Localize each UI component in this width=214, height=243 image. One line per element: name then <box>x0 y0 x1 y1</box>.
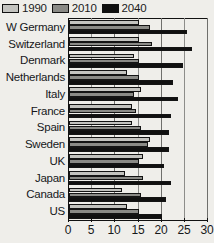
legend-label-1990: 1990 <box>22 3 47 14</box>
bar-denmark-2040 <box>69 63 183 68</box>
bar-switzerland-2040 <box>69 47 192 52</box>
bar-group <box>69 170 208 187</box>
tickmark-5 <box>91 218 92 222</box>
category-label-us: US <box>0 205 65 217</box>
bar-chart: 1990 2010 2040 W GermanySwitzerlandDenma… <box>0 0 214 243</box>
bar-group <box>69 187 208 204</box>
bar-group <box>69 103 208 120</box>
bar-group <box>69 19 208 36</box>
tickmark-20 <box>161 218 162 222</box>
legend-item-1990: 1990 <box>2 3 47 14</box>
legend-label-2040: 2040 <box>122 3 147 14</box>
category-label-japan: Japan <box>0 172 65 184</box>
value-tick-label-25: 25 <box>178 223 191 237</box>
bar-group <box>69 120 208 137</box>
bar-japan-2040 <box>69 181 171 186</box>
value-axis-tick-labels: 051015202530 <box>0 222 214 238</box>
legend-swatch-2010 <box>52 4 69 13</box>
category-label-canada: Canada <box>0 188 65 200</box>
value-tick-label-15: 15 <box>132 223 145 237</box>
bar-w-germany-2040 <box>69 30 187 35</box>
bar-group <box>69 86 208 103</box>
bar-group <box>69 53 208 70</box>
legend-label-2010: 2010 <box>72 3 97 14</box>
category-label-france: France <box>0 105 65 117</box>
value-tick-label-0: 0 <box>65 223 71 237</box>
bar-us-2040 <box>69 214 162 219</box>
bar-sweden-2040 <box>69 147 169 152</box>
legend-item-2010: 2010 <box>52 3 97 14</box>
bar-uk-2040 <box>69 164 164 169</box>
value-tick-label-5: 5 <box>88 223 94 237</box>
bar-group <box>69 136 208 153</box>
bar-spain-2040 <box>69 130 169 135</box>
value-tick-label-10: 10 <box>108 223 121 237</box>
category-label-spain: Spain <box>0 121 65 133</box>
category-label-w-germany: W Germany <box>0 21 65 33</box>
plot-area <box>68 18 208 221</box>
tickmark-10 <box>114 218 115 222</box>
bar-canada-2040 <box>69 197 166 202</box>
bar-italy-2040 <box>69 97 178 102</box>
tickmark-0 <box>68 218 69 222</box>
value-tick-label-30: 30 <box>201 223 214 237</box>
tickmark-15 <box>138 218 139 222</box>
category-axis-labels: W GermanySwitzerlandDenmarkNetherlandsIt… <box>0 18 66 221</box>
bar-france-2040 <box>69 114 171 119</box>
tickmark-25 <box>184 218 185 222</box>
bar-group <box>69 36 208 53</box>
legend-swatch-1990 <box>2 4 19 13</box>
legend-item-2040: 2040 <box>102 3 147 14</box>
category-label-denmark: Denmark <box>0 54 65 66</box>
bar-netherlands-2040 <box>69 80 173 85</box>
category-label-uk: UK <box>0 155 65 167</box>
bar-group <box>69 153 208 170</box>
category-label-switzerland: Switzerland <box>0 38 65 50</box>
bar-group <box>69 69 208 86</box>
tickmark-30 <box>207 218 208 222</box>
category-label-netherlands: Netherlands <box>0 71 65 83</box>
chart-legend: 1990 2010 2040 <box>2 1 151 15</box>
value-tick-label-20: 20 <box>155 223 168 237</box>
category-label-italy: Italy <box>0 88 65 100</box>
category-label-sweden: Sweden <box>0 138 65 150</box>
legend-swatch-2040 <box>102 4 119 13</box>
